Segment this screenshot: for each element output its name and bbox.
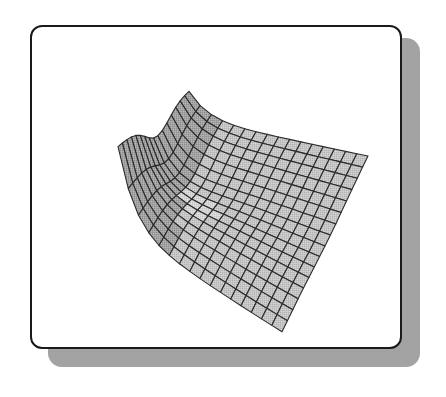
surface-mesh [118,91,368,331]
surface-plot [0,0,446,397]
